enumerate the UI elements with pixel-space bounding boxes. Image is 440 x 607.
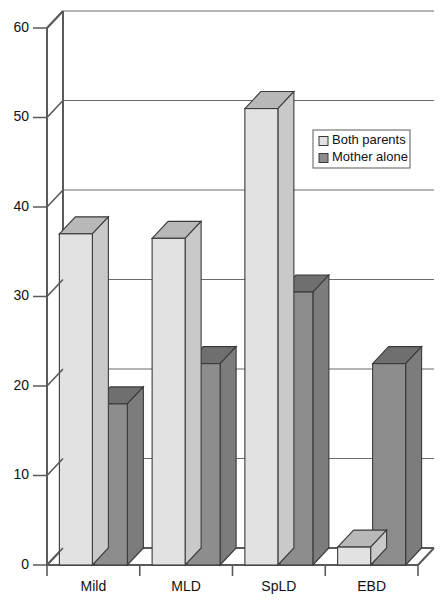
bar-chart: 0102030405060 MildMLDSpLDEBD Both parent… [0,0,440,607]
x-tick-label-EBD: EBD [357,578,386,594]
bar-Mild-both-parents [59,217,108,565]
legend-label-both-parents: Both parents [332,132,406,147]
x-tick-label-SpLD: SpLD [261,578,296,594]
y-tick-label: 0 [21,556,29,572]
x-axis-depth-right [418,548,434,565]
bar-side-face [185,221,201,565]
bar-side-face [92,217,108,565]
x-tick-label-MLD: MLD [171,578,201,594]
y-tick-mark [33,11,63,28]
bar-front-face [338,547,371,565]
bar-side-face [127,387,143,565]
y-tick-label: 50 [13,108,29,124]
chart-canvas: 0102030405060 MildMLDSpLDEBD Both parent… [0,0,440,607]
y-tick-label: 30 [13,287,29,303]
y-axis-ticks: 0102030405060 [13,11,63,572]
x-tick-label-Mild: Mild [81,578,107,594]
bar-side-face [220,347,236,565]
legend-swatch-both-parents [319,137,328,146]
y-tick-label: 20 [13,377,29,393]
bar-side-face [406,347,422,565]
legend-label-mother-alone: Mother alone [332,149,408,164]
bar-MLD-both-parents [152,221,201,565]
bar-front-face [245,109,278,565]
bar-front-face [59,234,92,565]
legend-swatch-mother-alone [319,154,328,163]
bar-side-face [313,275,329,565]
y-tick-label: 10 [13,466,29,482]
bar-SpLD-both-parents [245,92,294,565]
bar-front-face [152,238,185,565]
bar-side-face [278,92,294,565]
y-tick-label: 40 [13,198,29,214]
x-axis-ticks: MildMLDSpLDEBD [47,565,418,594]
y-tick-label: 60 [13,19,29,35]
chart-legend: Both parentsMother alone [313,130,410,168]
